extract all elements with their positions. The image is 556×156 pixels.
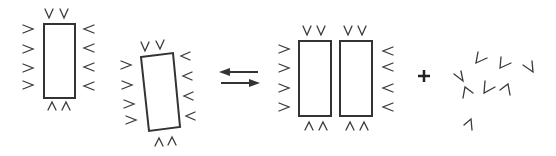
chevron-icon xyxy=(305,122,368,130)
chevron-icon xyxy=(383,47,393,111)
monomer-1-rectangle xyxy=(44,24,75,98)
dimer-rectangle-left xyxy=(299,41,331,116)
chevron-icon xyxy=(279,45,289,111)
dimerization-diagram: Two monomeric rectangles, each surrounde… xyxy=(0,0,556,156)
dimer-rectangle-right xyxy=(340,41,372,116)
chevron-icon xyxy=(484,81,495,93)
chevron-icon xyxy=(463,87,473,98)
chevron-icon xyxy=(23,25,33,89)
chevron-icon xyxy=(476,52,487,63)
chevron-icon xyxy=(84,25,94,90)
plus-icon xyxy=(418,70,430,82)
chevron-icon xyxy=(45,9,68,18)
chevron-icon xyxy=(48,102,70,110)
dimer xyxy=(279,26,393,130)
chevron-icon xyxy=(500,57,511,68)
monomer-2 xyxy=(121,40,195,146)
chevron-icon xyxy=(500,84,510,95)
chevron-icon xyxy=(155,137,176,146)
chevron-icon xyxy=(454,71,463,81)
chevron-icon xyxy=(303,26,366,35)
chevron-icon xyxy=(141,40,164,51)
chevron-icon xyxy=(523,61,533,72)
monomer-2-rectangle xyxy=(141,53,180,131)
released-chevrons xyxy=(454,52,533,130)
chevron-icon xyxy=(464,119,472,130)
equilibrium-arrows-icon xyxy=(219,68,260,87)
monomer-1 xyxy=(23,9,94,110)
chevron-icon xyxy=(181,52,195,120)
chevron-icon xyxy=(121,61,136,124)
